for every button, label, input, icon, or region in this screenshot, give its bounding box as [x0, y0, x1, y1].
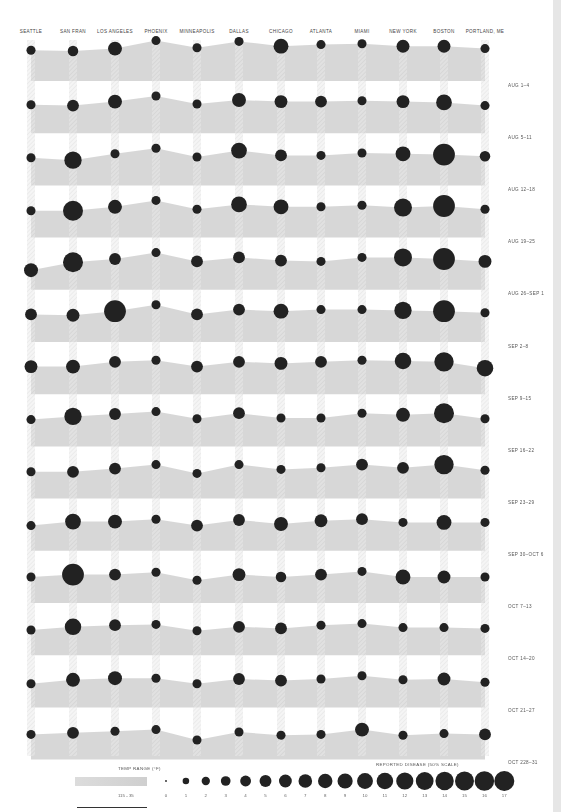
disease-dot: [108, 671, 122, 685]
legend-disease-tick: 13: [422, 793, 427, 798]
week-label: SEP 23–29: [508, 500, 534, 505]
disease-dot: [316, 413, 325, 422]
disease-dot: [231, 143, 247, 159]
disease-dot: [357, 409, 366, 418]
legend-disease-dot: [338, 773, 353, 788]
legend-disease-scale: [165, 771, 514, 791]
disease-temperature-chart: [0, 0, 561, 812]
disease-dot: [109, 619, 121, 631]
disease-dot: [355, 723, 369, 737]
week-label: OCT 14–20: [508, 656, 535, 661]
disease-dot: [151, 144, 160, 153]
disease-dot: [63, 252, 83, 272]
disease-dot: [480, 205, 489, 214]
disease-dot: [316, 674, 325, 683]
disease-dot: [26, 625, 35, 634]
disease-dot: [192, 626, 201, 635]
week-label: OCT 7–13: [508, 604, 532, 609]
disease-dot: [357, 39, 366, 48]
disease-dot: [26, 679, 35, 688]
disease-dot: [65, 619, 82, 636]
disease-dot: [151, 725, 160, 734]
disease-dot: [394, 248, 412, 266]
disease-dot: [357, 619, 366, 628]
disease-dot: [438, 571, 451, 584]
legend-disease-dot: [416, 772, 434, 790]
temp-area-week-11: [31, 624, 485, 656]
disease-dot: [480, 572, 489, 581]
disease-dot: [109, 463, 121, 475]
disease-dot: [433, 248, 455, 270]
legend-disease-tick: 15: [462, 793, 467, 798]
disease-dot: [275, 357, 288, 370]
disease-dot: [316, 730, 325, 739]
disease-dot: [110, 727, 119, 736]
disease-dot: [233, 407, 245, 419]
disease-dot: [315, 514, 328, 527]
disease-dot: [275, 623, 287, 635]
disease-dot: [437, 515, 452, 530]
disease-dot: [233, 356, 245, 368]
disease-dot: [356, 513, 368, 525]
disease-dot: [275, 150, 287, 162]
disease-dot: [316, 257, 325, 266]
temp-area-week-8: [31, 465, 485, 499]
disease-dot: [25, 309, 37, 321]
disease-dot: [315, 569, 327, 581]
disease-dot: [480, 518, 489, 527]
legend-disease-tick: 3: [224, 793, 226, 798]
disease-dot: [151, 356, 160, 365]
legend-disease-dot: [396, 772, 413, 789]
legend-disease-dot: [165, 780, 167, 782]
disease-dot: [24, 263, 38, 277]
week-bands: [31, 41, 485, 760]
temp-area-week-0: [31, 41, 485, 81]
disease-dot: [433, 300, 455, 322]
disease-dot: [233, 252, 245, 264]
temp-area-week-10: [31, 571, 485, 603]
disease-dot: [233, 673, 245, 685]
disease-dot: [275, 95, 288, 108]
week-label: SEP 9–15: [508, 396, 531, 401]
disease-dot: [439, 623, 448, 632]
city-stripe-2: [111, 40, 119, 756]
disease-dot: [274, 304, 289, 319]
legend-disease-tick: 17: [502, 793, 507, 798]
disease-dot: [67, 727, 79, 739]
disease-dot: [67, 466, 79, 478]
disease-dot: [316, 202, 325, 211]
disease-dot: [480, 466, 489, 475]
disease-dot: [276, 731, 285, 740]
city-stripe-7: [317, 40, 325, 756]
disease-dot: [480, 151, 491, 162]
disease-dot: [192, 735, 201, 744]
disease-dot: [396, 146, 411, 161]
legend-disease-tick: 12: [402, 793, 407, 798]
disease-dot: [398, 518, 407, 527]
disease-dot: [357, 671, 366, 680]
disease-dot: [276, 572, 287, 583]
disease-dot: [66, 360, 80, 374]
disease-dot: [316, 305, 325, 314]
disease-dot: [397, 95, 410, 108]
legend-disease-dot: [221, 776, 231, 786]
disease-dot: [191, 520, 203, 532]
disease-dot: [192, 576, 201, 585]
disease-dot: [26, 730, 35, 739]
legend-disease-tick: 4: [244, 793, 246, 798]
disease-dot: [110, 149, 119, 158]
disease-dot: [192, 414, 201, 423]
disease-dot: [151, 196, 160, 205]
disease-dot: [397, 40, 410, 53]
disease-dot: [108, 95, 122, 109]
temp-area-week-13: [31, 730, 485, 760]
disease-dot: [316, 40, 325, 49]
disease-dot: [357, 148, 366, 157]
disease-dot: [395, 353, 412, 370]
temp-area-week-9: [31, 519, 485, 551]
week-label: AUG 12–18: [508, 187, 535, 192]
disease-dot: [398, 675, 407, 684]
legend-disease-tick: 1: [185, 793, 187, 798]
disease-dot: [357, 305, 366, 314]
legend-disease-dot: [260, 775, 272, 787]
